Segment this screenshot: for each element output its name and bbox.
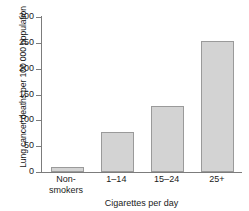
bar [51,167,84,172]
bar-chart: Lung cancer deaths per 100 000 populatio… [0,0,249,211]
y-axis-tick-label: 300 [4,12,34,21]
bar [101,132,134,172]
x-axis-category-label: 1–14 [91,174,141,185]
x-axis-category-label-line: 25+ [192,174,242,185]
y-axis-tick-label: 50 [4,141,34,150]
x-axis-title: Cigarettes per day [41,198,242,208]
y-axis-tick-label: 100 [4,115,34,124]
x-axis-category-label-line: 1–14 [91,174,141,185]
x-axis-category-label-line: smokers [41,185,91,196]
y-axis-tick [36,172,41,173]
x-axis-category-label: Non-smokers [41,174,91,195]
y-axis-tick-label: 250 [4,38,34,47]
y-axis-tick-label: 200 [4,64,34,73]
bars-layer [41,17,242,172]
y-axis-tick-label: 150 [4,90,34,99]
y-axis-tick-label: 0 [4,167,34,176]
x-axis-line [41,172,242,173]
x-axis-category-label-line: 15–24 [142,174,192,185]
x-axis-category-label-line: Non- [41,174,91,185]
x-axis-category-label: 25+ [192,174,242,185]
bar [151,106,184,172]
x-axis-category-label: 15–24 [142,174,192,185]
bar [201,41,234,172]
